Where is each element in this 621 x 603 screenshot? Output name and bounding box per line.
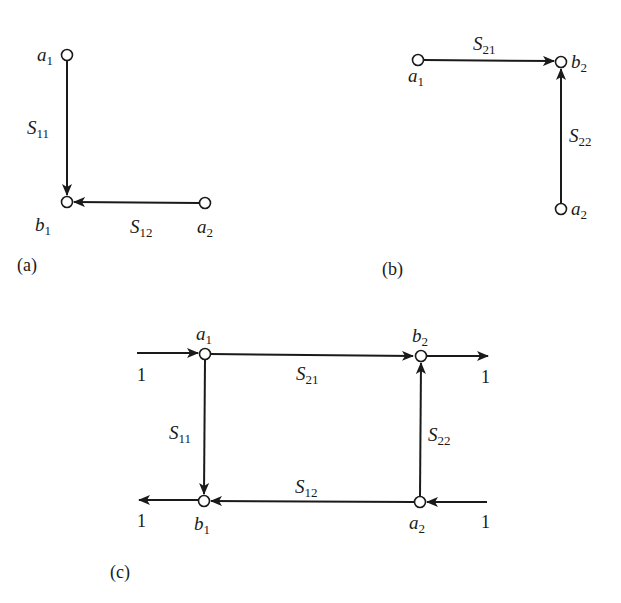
node-a2: [556, 204, 567, 215]
node-a1: [200, 349, 211, 360]
node-a2: [415, 497, 426, 508]
edge-a2-b2-s22: [420, 363, 421, 496]
label-a1: a1: [37, 44, 53, 68]
label-b1: b1: [194, 513, 210, 537]
edge-a1-b2-s21: [424, 60, 554, 61]
label-b1: b1: [35, 214, 51, 238]
label-s22: S22: [569, 125, 592, 149]
label-s22: S22: [428, 424, 451, 448]
label-b2: b2: [571, 51, 587, 75]
label-s12: S12: [130, 216, 153, 240]
caption-b: (b): [382, 259, 403, 280]
label-a2: a2: [571, 198, 587, 222]
node-b1: [62, 197, 73, 208]
node-a1: [413, 55, 424, 66]
node-b1: [199, 496, 210, 507]
label-s11: S11: [169, 422, 191, 446]
label-s21: S21: [296, 363, 319, 387]
signal-flow-figure: a1 S11 b1 S12 a2 (a) S21 a1 b2 S22 a2 (b…: [0, 0, 621, 603]
edge-a1-b1-s11: [204, 360, 205, 494]
node-b2: [416, 351, 427, 362]
label-port-in-a1: 1: [137, 365, 146, 385]
label-a2: a2: [197, 216, 213, 240]
edge-a2-b1-s12: [211, 501, 414, 502]
label-b2: b2: [412, 325, 428, 349]
edge-a2-b1-s12: [74, 202, 199, 203]
panel-c: 1 1 1 1 a1 b2 b1 a2 S21 S11 S22 S12 (c): [110, 323, 490, 583]
caption-c: (c): [110, 562, 130, 583]
label-port-out-b2: 1: [481, 367, 490, 387]
node-b2: [556, 57, 567, 68]
label-s12: S12: [295, 476, 318, 500]
label-a1: a1: [196, 323, 212, 347]
label-port-in-a2: 1: [481, 512, 490, 532]
label-a2: a2: [409, 512, 425, 536]
panel-a: a1 S11 b1 S12 a2 (a): [17, 44, 213, 276]
panel-b: S21 a1 b2 S22 a2 (b): [382, 33, 592, 280]
node-a1: [62, 50, 73, 61]
edge-a1-b2-s21: [211, 354, 413, 356]
label-a1: a1: [408, 65, 424, 89]
caption-a: (a): [17, 255, 37, 276]
label-port-out-b1: 1: [137, 511, 146, 531]
label-s21: S21: [473, 33, 496, 57]
node-a2: [200, 198, 211, 209]
label-s11: S11: [27, 117, 49, 141]
